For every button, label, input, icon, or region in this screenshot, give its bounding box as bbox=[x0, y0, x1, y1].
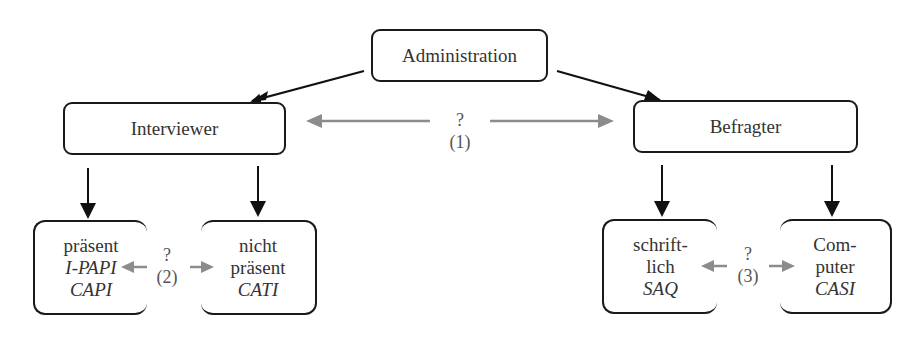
node-befragter-label: Befragter bbox=[710, 116, 782, 138]
arrow-question-1-right bbox=[490, 114, 614, 128]
node-computer-code-1: CASI bbox=[815, 278, 855, 300]
node-nicht-praesent-code-1: CATI bbox=[238, 279, 278, 301]
node-praesent-code-2: CAPI bbox=[70, 279, 112, 301]
node-schriftlich-code-1: SAQ bbox=[643, 278, 678, 300]
arrow-admin-to-interviewer bbox=[250, 71, 364, 102]
diagram-canvas: Administration Interviewer Befragter ? (… bbox=[0, 0, 921, 338]
node-praesent-line-1: präsent bbox=[64, 235, 119, 257]
connector-1-number: (1) bbox=[435, 131, 485, 153]
arrow-interviewer-to-praesent bbox=[80, 168, 96, 219]
node-computer-line-1: Com- bbox=[813, 234, 856, 256]
node-nicht-praesent-line-2: präsent bbox=[231, 257, 286, 279]
node-schriftlich-line-2: lich bbox=[646, 256, 675, 278]
node-nicht-praesent: nicht präsent CATI bbox=[201, 220, 317, 315]
connector-1-label: ? (1) bbox=[435, 109, 485, 153]
node-praesent: präsent I-PAPI CAPI bbox=[33, 220, 147, 315]
node-praesent-code-1: I-PAPI bbox=[65, 257, 116, 279]
arrow-admin-to-befragter bbox=[557, 71, 662, 101]
arrow-interviewer-to-nicht-praesent bbox=[250, 166, 266, 217]
node-computer: Com- puter CASI bbox=[780, 219, 892, 314]
arrow-question-1-left bbox=[306, 114, 430, 128]
connector-2-label: ? (2) bbox=[147, 244, 187, 288]
node-schriftlich-line-1: schrift- bbox=[633, 234, 688, 256]
node-interviewer-label: Interviewer bbox=[131, 118, 219, 140]
connector-3-label: ? (3) bbox=[728, 243, 768, 287]
arrow-befragter-to-computer bbox=[824, 165, 840, 217]
connector-2-question: ? bbox=[147, 244, 187, 266]
node-administration: Administration bbox=[371, 29, 548, 82]
connector-3-number: (3) bbox=[728, 265, 768, 287]
connector-1-question: ? bbox=[435, 109, 485, 131]
node-befragter: Befragter bbox=[633, 100, 858, 153]
node-administration-label: Administration bbox=[402, 45, 517, 67]
node-interviewer: Interviewer bbox=[63, 102, 286, 155]
node-schriftlich: schrift- lich SAQ bbox=[602, 219, 717, 314]
node-nicht-praesent-line-1: nicht bbox=[239, 235, 277, 257]
arrow-befragter-to-schriftlich bbox=[654, 165, 670, 217]
connector-2-number: (2) bbox=[147, 266, 187, 288]
node-computer-line-2: puter bbox=[815, 256, 854, 278]
connector-3-question: ? bbox=[728, 243, 768, 265]
